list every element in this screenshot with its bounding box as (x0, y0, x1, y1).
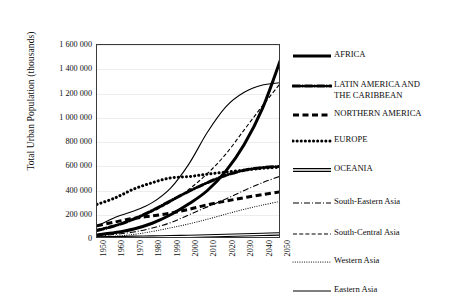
legend-line-sample (292, 48, 332, 60)
legend-line-sample (292, 78, 332, 90)
series-line (97, 58, 280, 235)
legend-label: NORTHERN AMERICA (334, 107, 422, 119)
x-tick-label: 2050 (283, 240, 292, 256)
legend-item[interactable]: South-Central Asia (292, 226, 452, 238)
y-tick-label: 0 (88, 234, 92, 243)
y-axis-title: Total Urban Population (thousands) (26, 6, 36, 196)
legend-item[interactable]: OCEANIA (292, 162, 452, 174)
y-tick-label: 1 200 000 (59, 88, 92, 97)
x-tick-label: 1950 (99, 240, 108, 256)
x-tick-label: 2020 (228, 240, 237, 256)
legend-item[interactable]: Western Asia (292, 254, 452, 266)
legend-item[interactable]: LATIN AMERICA AND THE CARIBBEAN (292, 78, 452, 100)
legend-line-sample (292, 107, 332, 119)
y-tick-label: 800 000 (65, 137, 92, 146)
y-tick-label: 200 000 (65, 209, 92, 218)
series-line (97, 192, 280, 226)
legend-label: EUROPE (334, 133, 367, 145)
y-tick-label: 1 600 000 (59, 40, 92, 49)
legend-item[interactable]: EUROPE (292, 133, 452, 145)
chart-legend: AFRICALATIN AMERICA AND THE CARIBBEANNOR… (292, 40, 452, 292)
y-axis-tick-labels: 0200 000400 000600 000800 0001 000 0001 … (38, 38, 92, 243)
y-tick-label: 600 000 (65, 161, 92, 170)
legend-label: South-Eastern Asia (334, 195, 400, 207)
y-tick-label: 400 000 (65, 185, 92, 194)
x-tick-label: 2040 (265, 240, 274, 256)
legend-line-sample (292, 283, 332, 295)
chart-figure: Total Urban Population (thousands) 0200 … (0, 0, 454, 302)
legend-line-sample (292, 254, 332, 266)
plot-area (96, 44, 280, 238)
x-tick-label: 2010 (209, 240, 218, 256)
legend-label: OCEANIA (334, 162, 373, 174)
legend-item[interactable]: Eastern Asia (292, 283, 452, 295)
x-tick-label: 1960 (117, 240, 126, 256)
y-tick-label: 1 000 000 (59, 112, 92, 121)
legend-item[interactable]: South-Eastern Asia (292, 195, 452, 207)
x-tick-label: 2030 (246, 240, 255, 256)
series-line (97, 176, 280, 236)
x-tick-label: 1980 (154, 240, 163, 256)
legend-label: South-Central Asia (334, 226, 400, 238)
legend-line-sample (292, 226, 332, 238)
legend-line-sample (292, 195, 332, 207)
y-tick-label: 1 400 000 (59, 64, 92, 73)
legend-label: Western Asia (334, 254, 379, 266)
legend-label: AFRICA (334, 48, 366, 60)
series-curves (97, 45, 280, 238)
series-line (97, 167, 280, 204)
legend-item[interactable]: NORTHERN AMERICA (292, 107, 452, 119)
legend-line-sample (292, 133, 332, 145)
x-tick-label: 1990 (173, 240, 182, 256)
x-tick-label: 1970 (136, 240, 145, 256)
x-tick-label: 2000 (191, 240, 200, 256)
series-line (97, 166, 280, 230)
legend-label: Eastern Asia (334, 283, 377, 295)
legend-item[interactable]: AFRICA (292, 48, 452, 60)
x-axis-tick-labels: 1950196019701980199020002010202020302040… (96, 240, 280, 280)
legend-line-sample (292, 162, 332, 174)
legend-label: LATIN AMERICA AND THE CARIBBEAN (334, 78, 420, 100)
